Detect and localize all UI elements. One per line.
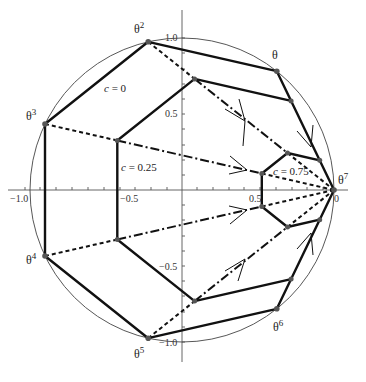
heptagon-diagram: −1.0 −0.5 0.5 0 1.0 0.5 −0.5 −1.0 xyxy=(0,0,366,382)
y-tick-label: −1.0 xyxy=(159,337,177,348)
y-tick-label: 1.0 xyxy=(165,32,178,43)
label-theta2: θ2 xyxy=(134,20,144,36)
label-theta3: θ3 xyxy=(26,107,37,123)
x-tick-label: 0 xyxy=(334,193,339,204)
y-tick-label: 0.5 xyxy=(165,108,178,119)
x-tick-label: 0.5 xyxy=(249,193,262,204)
label-theta1: θ xyxy=(272,48,278,62)
axes: −1.0 −0.5 0.5 0 1.0 0.5 −0.5 −1.0 xyxy=(8,10,348,362)
label-c0: c = 0 xyxy=(104,82,127,94)
label-theta4: θ4 xyxy=(26,251,37,267)
label-c075: c = 0.75 xyxy=(273,165,309,177)
label-theta7: θ7 xyxy=(338,171,349,187)
y-tick-label: −0.5 xyxy=(159,261,177,272)
vertex-labels: θ θ2 θ3 θ4 θ5 θ6 θ7 xyxy=(26,20,349,361)
label-theta6: θ6 xyxy=(273,318,284,334)
x-tick-label: −0.5 xyxy=(120,193,138,204)
label-c025: c = 0.25 xyxy=(121,161,157,173)
label-theta5: θ5 xyxy=(134,345,145,361)
x-tick-label: −1.0 xyxy=(10,193,28,204)
